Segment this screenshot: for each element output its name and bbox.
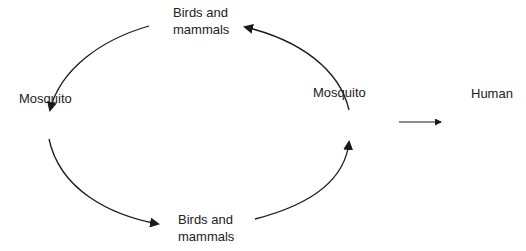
node-mosquito-left: Mosquito: [19, 90, 72, 107]
arrow-left-to-bottom: [49, 139, 158, 224]
node-birds-mammals-top: Birds and mammals: [173, 4, 229, 38]
transmission-cycle-diagram: Birds and mammals Mosquito Mosquito Bird…: [0, 0, 526, 251]
node-birds-mammals-bottom: Birds and mammals: [178, 211, 234, 245]
cycle-arrows: [0, 0, 526, 251]
node-label-line: Birds and: [178, 211, 234, 228]
arrow-bottom-to-right: [255, 142, 349, 219]
node-label-line: mammals: [173, 21, 229, 38]
node-label-line: Birds and: [173, 4, 229, 21]
node-label-line: mammals: [178, 228, 234, 245]
node-mosquito-right: Mosquito: [313, 84, 366, 101]
node-human: Human: [471, 85, 513, 102]
